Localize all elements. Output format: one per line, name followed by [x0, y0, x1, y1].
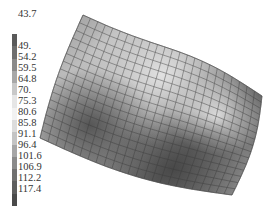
colorbar-tick: 117.4 — [18, 183, 41, 194]
colorbar-swatch — [12, 46, 17, 58]
colorbar-tick: 112.2 — [18, 172, 41, 183]
colorbar-swatch — [12, 120, 17, 132]
colorbar-tick: 80.6 — [18, 106, 36, 117]
colorbar-swatch — [12, 157, 17, 169]
colorbar-tick: 70. — [18, 84, 31, 95]
colorbar-swatch — [12, 59, 17, 71]
colorbar-swatch — [12, 132, 17, 144]
colorbar-tick: 85.8 — [18, 117, 36, 128]
colorbar-swatch — [12, 181, 17, 193]
colorbar-swatch — [12, 95, 17, 107]
surface-plot-figure: 43.7 49. 54.2 59.5 64.8 70. 75.3 80.6 85… — [0, 0, 278, 216]
colorbar-tick: 91.1 — [18, 128, 36, 139]
colorbar-tick: 64.8 — [18, 73, 36, 84]
mesh-surface — [0, 0, 278, 216]
colorbar-tick: 75.3 — [18, 95, 36, 106]
colorbar-tick: 101.6 — [18, 150, 42, 161]
colorbar-tick: 59.5 — [18, 62, 36, 73]
colorbar-tick: 106.9 — [18, 161, 42, 172]
colorbar-tick: 96.4 — [18, 139, 36, 150]
colorbar-swatch — [12, 34, 17, 46]
colorbar-swatch — [12, 145, 17, 157]
colorbar-swatch — [12, 83, 17, 95]
colorbar-swatch — [12, 169, 17, 181]
colorbar-swatch — [12, 194, 17, 206]
colorbar-swatch — [12, 71, 17, 83]
colorbar-tick: 43.7 — [18, 8, 36, 19]
colorbar — [12, 34, 17, 206]
colorbar-tick: 54.2 — [18, 51, 36, 62]
colorbar-tick: 49. — [18, 40, 31, 51]
colorbar-swatch — [12, 108, 17, 120]
